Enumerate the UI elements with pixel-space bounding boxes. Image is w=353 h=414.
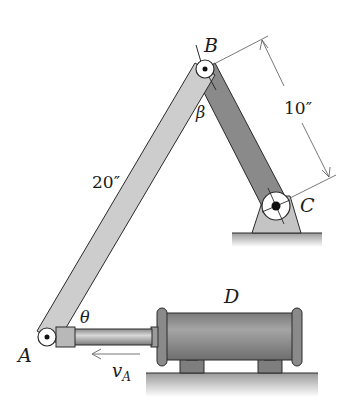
label-a: A bbox=[16, 344, 32, 366]
dimension-ab-label: 20″ bbox=[92, 172, 120, 192]
dimension-bc-label: 10″ bbox=[284, 98, 312, 118]
mechanism-diagram: 10″ 20″ A B C D θ β vA bbox=[0, 0, 353, 414]
label-c: C bbox=[300, 194, 315, 216]
label-d: D bbox=[223, 285, 239, 307]
hydraulic-cylinder-d bbox=[151, 308, 302, 373]
ground-d bbox=[146, 373, 318, 397]
ground-c bbox=[232, 233, 322, 247]
piston-rod bbox=[56, 327, 152, 347]
link-ab bbox=[37, 63, 215, 343]
velocity-arrow-va bbox=[92, 349, 140, 359]
label-theta: θ bbox=[80, 308, 90, 327]
pin-a bbox=[38, 328, 56, 346]
label-beta: β bbox=[195, 103, 205, 122]
label-va: vA bbox=[112, 360, 131, 384]
label-b: B bbox=[203, 34, 218, 56]
